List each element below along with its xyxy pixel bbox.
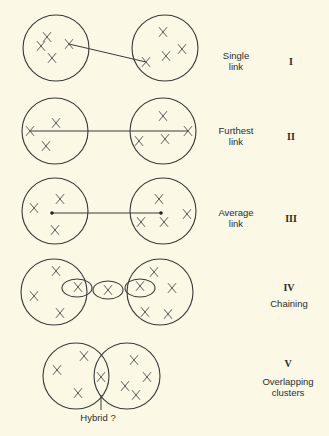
centroid-dot bbox=[50, 211, 54, 215]
cluster-circle bbox=[94, 343, 160, 409]
data-point-x-icon bbox=[97, 372, 105, 382]
panel-title-line: link bbox=[219, 136, 254, 147]
data-point-x-icon bbox=[159, 111, 167, 121]
data-point-x-icon bbox=[143, 372, 151, 382]
data-point-x-icon bbox=[52, 266, 60, 276]
cluster-circle bbox=[130, 178, 196, 244]
data-point-x-icon bbox=[162, 51, 170, 61]
data-point-x-icon bbox=[74, 388, 82, 398]
hybrid-annotation: Hybrid ? bbox=[80, 412, 115, 423]
data-point-x-icon bbox=[121, 381, 129, 391]
panel-title: Overlappingclusters bbox=[262, 376, 313, 398]
panel-title-line: link bbox=[223, 61, 249, 72]
data-point-x-icon bbox=[53, 365, 61, 375]
data-point-x-icon bbox=[56, 308, 64, 318]
data-point-x-icon bbox=[159, 27, 167, 37]
link-line bbox=[69, 44, 146, 62]
panel-I bbox=[23, 15, 198, 81]
panel-numeral: I bbox=[289, 56, 293, 67]
data-point-x-icon bbox=[178, 44, 186, 54]
panel-III bbox=[22, 178, 196, 244]
data-point-x-icon bbox=[183, 209, 191, 219]
cluster-circle bbox=[127, 259, 193, 325]
data-point-x-icon bbox=[168, 283, 176, 293]
data-point-x-icon bbox=[164, 309, 172, 319]
data-point-x-icon bbox=[52, 118, 60, 128]
data-point-x-icon bbox=[30, 291, 38, 301]
panel-title-line: link bbox=[218, 218, 253, 229]
clustering-linkage-diagram: ISinglelinkIIFurthestlinkIIIAveragelinkI… bbox=[0, 0, 329, 436]
data-point-x-icon bbox=[74, 282, 82, 292]
data-point-x-icon bbox=[65, 39, 73, 49]
panel-numeral: IV bbox=[283, 282, 294, 293]
data-point-x-icon bbox=[137, 217, 145, 227]
data-point-x-icon bbox=[56, 194, 64, 204]
panel-numeral: II bbox=[287, 131, 295, 142]
panel-title-line: clusters bbox=[262, 387, 313, 398]
data-point-x-icon bbox=[80, 351, 88, 361]
data-point-x-icon bbox=[132, 390, 140, 400]
panel-title: Singlelink bbox=[223, 50, 249, 72]
data-point-x-icon bbox=[42, 141, 50, 151]
panel-V bbox=[43, 343, 160, 410]
data-point-x-icon bbox=[155, 194, 163, 204]
data-point-x-icon bbox=[160, 217, 168, 227]
data-point-x-icon bbox=[130, 355, 138, 365]
data-point-x-icon bbox=[136, 281, 144, 291]
data-point-x-icon bbox=[161, 134, 169, 144]
data-point-x-icon bbox=[51, 225, 59, 235]
panel-numeral: III bbox=[285, 213, 297, 224]
panel-title-line: Overlapping bbox=[262, 376, 313, 387]
panel-title-line: Single bbox=[223, 50, 249, 61]
data-point-x-icon bbox=[141, 307, 149, 317]
data-point-x-icon bbox=[142, 57, 150, 67]
panel-title: Furthestlink bbox=[219, 125, 254, 147]
cluster-circle bbox=[23, 15, 89, 81]
data-point-x-icon bbox=[48, 53, 56, 63]
centroid-dot bbox=[159, 211, 163, 215]
panel-title: Averagelink bbox=[218, 207, 253, 229]
data-point-x-icon bbox=[43, 32, 51, 42]
data-point-x-icon bbox=[150, 267, 158, 277]
diagram-canvas bbox=[0, 0, 329, 436]
chain-ellipse bbox=[125, 279, 155, 297]
panel-title-line: Furthest bbox=[219, 125, 254, 136]
cluster-circle bbox=[43, 343, 109, 409]
panel-numeral: V bbox=[284, 358, 291, 369]
data-point-x-icon bbox=[37, 41, 45, 51]
panel-title: Chaining bbox=[270, 298, 308, 309]
panel-title-line: Average bbox=[218, 207, 253, 218]
panel-II bbox=[22, 98, 196, 164]
data-point-x-icon bbox=[135, 136, 143, 146]
panel-title-line: Chaining bbox=[270, 298, 308, 309]
cluster-circle bbox=[132, 15, 198, 81]
data-point-x-icon bbox=[30, 203, 38, 213]
panel-IV bbox=[21, 259, 193, 325]
data-point-x-icon bbox=[104, 285, 112, 295]
